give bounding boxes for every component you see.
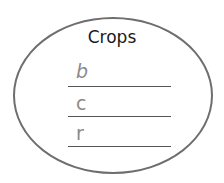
entry-letter-1: b xyxy=(76,60,88,82)
entry-letter-3: r xyxy=(76,122,84,144)
write-line-1 xyxy=(68,86,171,87)
write-line-3 xyxy=(68,146,171,147)
entry-letter-2: c xyxy=(76,92,86,114)
write-line-2 xyxy=(68,116,171,117)
diagram-title: Crops xyxy=(0,27,224,47)
